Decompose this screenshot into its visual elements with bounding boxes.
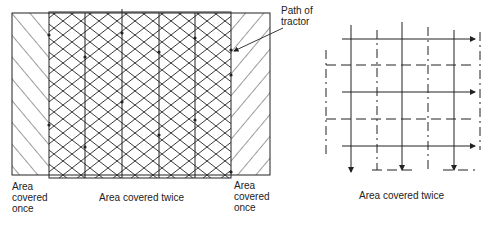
label-line: tractor xyxy=(281,16,313,27)
label-area-covered-twice-right: Area covered twice xyxy=(359,190,444,201)
left-figure xyxy=(12,9,283,178)
label-path-of-tractor: Path of tractor xyxy=(281,5,313,27)
label-area-covered-once-left: Area covered once xyxy=(12,181,48,214)
label-line: once xyxy=(12,203,48,214)
label-line: covered xyxy=(12,192,48,203)
label-line: Area xyxy=(12,181,48,192)
label-area-covered-twice-left: Area covered twice xyxy=(99,192,184,203)
twice-region xyxy=(49,13,231,178)
label-line: Path of xyxy=(281,5,313,16)
label-line: covered xyxy=(234,191,270,202)
left-once-strip xyxy=(12,13,49,175)
label-area-covered-once-right: Area covered once xyxy=(234,180,270,213)
right-figure xyxy=(326,22,480,172)
label-line: once xyxy=(234,202,270,213)
label-line: Area xyxy=(234,180,270,191)
